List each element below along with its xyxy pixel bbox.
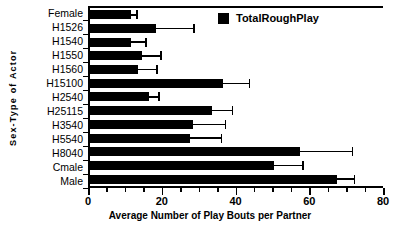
legend: TotalRoughPlay [218,12,319,24]
x-tick-label-80: 80 [377,195,389,207]
x-axis-tick-marks [88,188,383,195]
error-bar-h25115 [212,110,232,112]
y-axis-category-labels: FemaleH1526H1540H1550H1560H15100H2540H25… [14,6,86,188]
x-tick-major-20 [162,188,164,195]
error-bar-h1550 [142,55,160,57]
x-axis-title: Average Number of Play Bouts per Partner [60,210,360,221]
error-bar-h1526 [156,28,193,30]
y-axis-label-h3540: H3540 [14,118,86,132]
error-bar-cap-h1540 [145,38,147,47]
y-axis-label-h5540: H5540 [14,132,86,146]
bar-row [90,131,383,145]
bar-h25115 [90,106,212,115]
x-tick-label-0: 0 [85,195,91,207]
x-tick-minor-55 [291,188,293,192]
legend-swatch-totalroughplay [218,13,229,24]
bar-h8040 [90,147,300,156]
legend-label-totalroughplay: TotalRoughPlay [236,12,319,24]
error-bar-cap-h15100 [249,79,251,88]
bar-male [90,175,337,184]
y-axis-label-female: Female [14,6,86,20]
y-axis-label-h8040: H8040 [14,146,86,160]
error-bar-h1560 [138,69,156,71]
bar-h1550 [90,51,142,60]
error-bar-h1540 [131,41,146,43]
y-axis-label-h1526: H1526 [14,20,86,34]
bar-row [90,118,383,132]
x-tick-label-60: 60 [303,195,315,207]
x-tick-minor-10 [125,188,127,192]
error-bar-cmale [274,165,302,167]
bar-row [90,35,383,49]
y-axis-label-h1550: H1550 [14,48,86,62]
x-tick-label-40: 40 [229,195,241,207]
error-bar-cap-h25115 [232,106,234,115]
y-axis-label-h15100: H15100 [14,76,86,90]
bar-row [90,90,383,104]
error-bar-cap-h1550 [160,51,162,60]
bar-h3540 [90,120,193,129]
bar-cmale [90,161,274,170]
error-bar-cap-h1526 [193,24,195,33]
error-bar-male [337,178,354,180]
bar-series-group [90,8,383,186]
error-bar-h15100 [223,83,249,85]
bar-h1560 [90,65,138,74]
x-tick-minor-25 [180,188,182,192]
bar-h1540 [90,38,131,47]
x-tick-minor-50 [272,188,274,192]
bar-chart: Sex-Type of Actor FemaleH1526H1540H1550H… [0,0,393,234]
error-bar-h3540 [193,124,224,126]
x-tick-minor-45 [254,188,256,192]
x-tick-major-40 [236,188,238,195]
error-bar-cap-h3540 [225,120,227,129]
x-tick-minor-5 [106,188,108,192]
error-bar-h8040 [300,151,352,153]
bar-row [90,159,383,173]
error-bar-cap-female [136,10,138,19]
y-axis-label-h25115: H25115 [14,104,86,118]
bar-h2540 [90,92,149,101]
error-bar-cap-cmale [302,161,304,170]
error-bar-cap-h5540 [221,134,223,143]
bar-row [90,49,383,63]
error-bar-cap-h8040 [352,147,354,156]
plot-area [88,6,383,188]
y-axis-label-h1560: H1560 [14,62,86,76]
bar-row [90,63,383,77]
error-bar-cap-h2540 [158,92,160,101]
y-axis-label-cmale: Cmale [14,160,86,174]
x-tick-minor-70 [346,188,348,192]
error-bar-h5540 [190,137,221,139]
bar-h1526 [90,24,156,33]
x-tick-label-20: 20 [156,195,168,207]
x-tick-major-60 [309,188,311,195]
bar-row [90,76,383,90]
x-tick-minor-15 [143,188,145,192]
bar-row [90,172,383,186]
x-axis-tick-labels: 020406080 [88,195,383,209]
x-tick-major-0 [88,188,90,195]
error-bar-h2540 [149,96,158,98]
x-tick-minor-75 [365,188,367,192]
y-axis-label-male: Male [14,174,86,188]
error-bar-cap-h1560 [156,65,158,74]
x-tick-minor-65 [328,188,330,192]
y-axis-label-h2540: H2540 [14,90,86,104]
y-axis-label-h1540: H1540 [14,34,86,48]
error-bar-cap-male [354,175,356,184]
bar-row [90,104,383,118]
bar-row [90,145,383,159]
x-tick-minor-35 [217,188,219,192]
x-tick-minor-30 [199,188,201,192]
bar-h5540 [90,134,190,143]
bar-female [90,10,131,19]
x-tick-major-80 [383,188,385,195]
bar-h15100 [90,79,223,88]
